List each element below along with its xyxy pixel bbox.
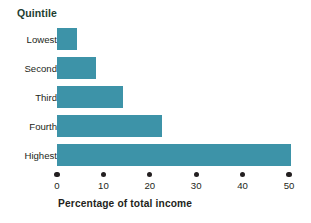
x-tick-label: 10 [89,180,117,191]
x-tick-label: 30 [182,180,210,191]
bar-row: Lowest [0,24,311,53]
plot-area: LowestSecondThirdFourthHighest [0,24,311,170]
x-axis-title: Percentage of total income [58,198,192,209]
bar-chart: Quintile LowestSecondThirdFourthHighest … [0,0,311,223]
x-tick-dot-icon [194,172,199,177]
x-tick-label: 20 [136,180,164,191]
bar-second [57,57,96,79]
x-axis: 01020304050 [0,170,311,200]
bar-row: Second [0,53,311,82]
category-label: Lowest [0,33,57,44]
category-label: Second [0,62,57,73]
x-tick-label: 50 [275,180,303,191]
x-tick-dot-icon [286,172,291,177]
category-label: Fourth [0,121,57,132]
bar-highest [57,144,291,166]
bar-row: Third [0,82,311,111]
y-axis-group-title: Quintile [17,7,57,19]
x-tick-dot-icon [54,172,59,177]
x-tick-label: 40 [229,180,257,191]
category-label: Highest [0,150,57,161]
x-tick-label: 0 [43,180,71,191]
x-tick-dot-icon [240,172,245,177]
category-label: Third [0,91,57,102]
bar-third [57,86,123,108]
x-tick-dot-icon [101,172,106,177]
bar-fourth [57,115,162,137]
bar-row: Fourth [0,112,311,141]
x-tick-dot-icon [147,172,152,177]
bar-lowest [57,28,77,50]
bar-row: Highest [0,141,311,170]
